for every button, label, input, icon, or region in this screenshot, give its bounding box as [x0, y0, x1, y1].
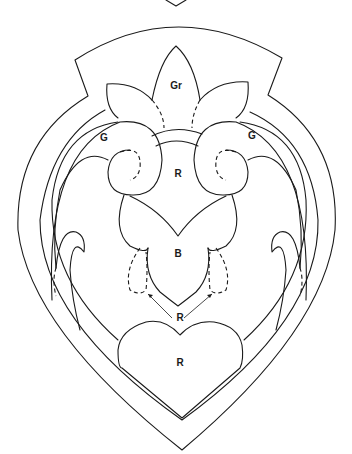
bottom-heart: [118, 321, 243, 418]
inner-shield-outline: [40, 110, 318, 420]
label-pointer: R: [176, 312, 184, 323]
label-bottom-heart: R: [176, 357, 184, 368]
label-top-flower: Gr: [170, 80, 182, 91]
left-frame-arc: [52, 122, 118, 340]
top-diamond-tip: [166, 0, 186, 6]
label-center-upper: R: [174, 168, 182, 179]
applique-pattern-diagram: Gr G G R B R R: [0, 0, 352, 454]
left-g-scroll: [51, 122, 162, 300]
label-left-scroll: G: [100, 132, 108, 143]
gr-tulip-right-hidden-edge: [192, 100, 200, 128]
gr-tulip-center-petal: [152, 46, 200, 100]
right-g-scroll-inner: [248, 156, 301, 268]
left-side-leaf-hidden-edge: [54, 268, 56, 296]
right-g-scroll: [194, 122, 306, 300]
left-b-hidden-lobe: [128, 248, 147, 293]
label-center-lower: B: [174, 248, 181, 259]
center-upper-r-shape: [119, 195, 237, 251]
right-side-leaf: [272, 232, 300, 330]
gr-tulip-right-petal: [200, 82, 248, 118]
left-g-scroll-inner: [55, 156, 108, 268]
right-frame-arc: [240, 122, 306, 340]
gr-tulip-left-hidden-edge: [152, 100, 164, 128]
gr-tulip-left-petal: [107, 84, 152, 118]
right-g-scroll-curl: [216, 150, 236, 180]
label-right-scroll: G: [248, 130, 256, 141]
right-b-hidden-lobe: [209, 248, 228, 293]
left-arrowhead-icon: [148, 294, 153, 298]
left-pointer-arrow: [148, 294, 172, 318]
left-g-scroll-curl: [120, 150, 140, 180]
